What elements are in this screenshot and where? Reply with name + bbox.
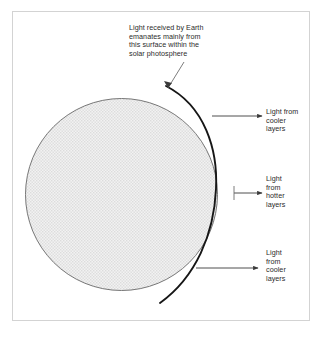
cooler-bottom-label: Light from cooler layers: [266, 249, 318, 283]
photosphere-annotation: Light received by Earth emanates mainly …: [129, 24, 227, 58]
sun-sphere: [26, 99, 218, 291]
figure-root: Light received by Earth emanates mainly …: [0, 0, 324, 337]
cooler-top-label: Light from cooler layers: [266, 108, 318, 134]
leader-line-tip: [164, 81, 172, 88]
hotter-middle-label: Light from hotter layers: [266, 175, 318, 209]
